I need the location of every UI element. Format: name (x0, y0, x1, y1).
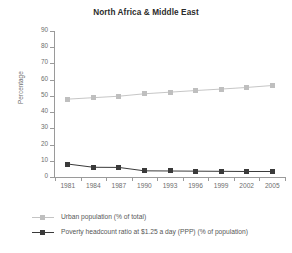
x-tick-mark (285, 178, 286, 181)
data-point-marker (270, 169, 275, 174)
data-point-marker (142, 168, 147, 173)
data-point-marker (65, 162, 70, 167)
x-tick-mark (259, 178, 260, 181)
y-tick-label: 50 (8, 92, 48, 98)
data-point-marker (91, 95, 96, 100)
y-tick-mark (50, 128, 54, 129)
chart-container: North Africa & Middle East Percentage 01… (0, 0, 292, 253)
x-axis-line (54, 177, 286, 178)
legend-label-urban: Urban population (% of total) (61, 214, 146, 221)
x-tick-mark (132, 178, 133, 181)
y-tick-label: 10 (8, 157, 48, 163)
legend-swatch-urban (32, 214, 54, 221)
data-point-marker (116, 165, 121, 170)
data-point-marker (142, 91, 147, 96)
x-tick-mark (208, 178, 209, 181)
legend-item-poverty[interactable]: Poverty headcount ratio at $1.25 a day (… (32, 225, 282, 240)
data-point-marker (116, 94, 121, 99)
y-tick-mark (50, 145, 54, 146)
y-tick-label: 0 (8, 173, 48, 179)
legend-label-poverty: Poverty headcount ratio at $1.25 a day (… (61, 229, 248, 236)
y-tick-mark (50, 80, 54, 81)
y-tick-mark (50, 177, 54, 178)
data-point-marker (168, 90, 173, 95)
data-point-marker (193, 88, 198, 93)
y-tick-label: 40 (8, 108, 48, 114)
legend-swatch-poverty (32, 229, 54, 236)
y-tick-label: 90 (8, 27, 48, 33)
y-tick-label: 60 (8, 76, 48, 82)
x-tick-label: 2005 (255, 183, 289, 190)
chart-title: North Africa & Middle East (0, 8, 292, 17)
y-tick-mark (50, 161, 54, 162)
y-tick-label: 20 (8, 141, 48, 147)
x-tick-mark (157, 178, 158, 181)
chart-legend: Urban population (% of total) Poverty he… (32, 210, 282, 240)
x-tick-mark (234, 178, 235, 181)
y-tick-mark (50, 31, 54, 32)
x-tick-mark (55, 178, 56, 181)
data-point-marker (219, 169, 224, 174)
y-tick-mark (50, 112, 54, 113)
y-tick-label: 80 (8, 43, 48, 49)
y-tick-label: 70 (8, 59, 48, 65)
x-tick-mark (183, 178, 184, 181)
legend-item-urban[interactable]: Urban population (% of total) (32, 210, 282, 225)
data-point-marker (219, 87, 224, 92)
data-point-marker (244, 85, 249, 90)
data-point-marker (244, 169, 249, 174)
data-point-marker (91, 165, 96, 170)
data-point-marker (193, 169, 198, 174)
x-tick-mark (106, 178, 107, 181)
y-tick-label: 30 (8, 124, 48, 130)
x-tick-mark (81, 178, 82, 181)
y-tick-mark (50, 47, 54, 48)
data-point-marker (270, 83, 275, 88)
data-point-marker (65, 97, 70, 102)
y-tick-mark (50, 96, 54, 97)
y-tick-mark (50, 63, 54, 64)
data-point-marker (168, 168, 173, 173)
y-axis-line (54, 31, 55, 178)
